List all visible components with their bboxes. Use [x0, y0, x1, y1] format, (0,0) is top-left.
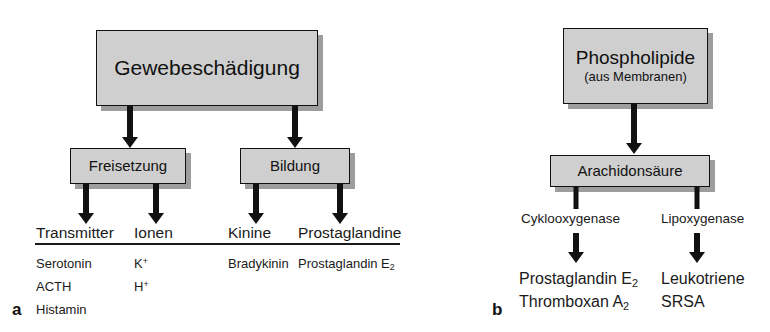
box-arachidonsaeure-label: Arachidonsäure: [577, 163, 682, 180]
arrow-freisetzung-to-transmitter: [78, 184, 94, 224]
column-header-kinine: Kinine: [228, 224, 271, 242]
box-bildung: Bildung: [240, 148, 350, 184]
arrow-shaft: [127, 106, 133, 137]
list-item: Bradykinin: [228, 256, 289, 271]
arrow-head: [568, 252, 584, 263]
list-item: K+: [134, 256, 148, 271]
arrow-bildung-to-prostaglandine: [332, 184, 348, 224]
box-arachidonsaeure: Arachidonsäure: [550, 155, 710, 187]
list-item: ACTH: [36, 279, 71, 294]
connector-arachidonsaeure-to-cyklooxygenase: [568, 187, 584, 209]
connector-shaft: [695, 187, 700, 209]
arrow-shaft: [337, 184, 343, 213]
enzyme-label-lipoxygenase: Lipoxygenase: [661, 211, 744, 226]
arrow-gewebeschaedigung-to-freisetzung: [122, 106, 138, 148]
connector-shaft: [574, 187, 579, 209]
column-header-ionen: Ionen: [134, 224, 173, 242]
column-header-transmitter: Transmitter: [36, 224, 114, 242]
arrow-cyklooxygenase-to-products: [568, 233, 584, 263]
arrow-head: [148, 213, 164, 224]
arrow-lipoxygenase-to-products: [689, 233, 705, 263]
list-item: Histamin: [36, 302, 87, 317]
arrow-head: [626, 143, 642, 154]
arrow-shaft: [631, 104, 637, 143]
product-label: SRSA: [661, 293, 705, 311]
box-freisetzung-label: Freisetzung: [89, 158, 167, 175]
connector-arachidonsaeure-to-lipoxygenase: [689, 187, 705, 209]
enzyme-label-cyklooxygenase: Cyklooxygenase: [521, 211, 620, 226]
panel-letter-b: b: [492, 300, 502, 320]
box-phospholipide-label: Phospholipide: [576, 47, 695, 68]
arrow-head: [122, 137, 138, 148]
panel-letter-a: a: [12, 300, 21, 320]
arrow-freisetzung-to-ionen: [148, 184, 164, 224]
box-freisetzung: Freisetzung: [70, 148, 186, 184]
arrow-head: [689, 252, 705, 263]
product-label: Thromboxan A2: [519, 293, 629, 312]
arrow-shaft: [253, 184, 259, 213]
column-header-prostaglandine: Prostaglandine: [298, 224, 401, 242]
arrow-gewebeschaedigung-to-bildung: [287, 106, 303, 148]
box-bildung-label: Bildung: [270, 158, 320, 175]
list-item: H+: [134, 279, 149, 294]
arrow-head: [332, 213, 348, 224]
arrow-head: [78, 213, 94, 224]
arrow-shaft: [83, 184, 89, 213]
product-label: Prostaglandin E2: [519, 270, 638, 289]
arrow-head: [248, 213, 264, 224]
arrow-shaft: [153, 184, 159, 213]
list-item: Serotonin: [36, 256, 92, 271]
arrow-head: [287, 137, 303, 148]
box-phospholipide-sublabel: (aus Membranen): [584, 70, 687, 85]
box-gewebeschaedigung: Gewebeschädigung: [96, 30, 318, 106]
arrow-shaft: [694, 233, 700, 252]
column-header-divider: [35, 243, 400, 245]
box-phospholipide: Phospholipide (aus Membranen): [563, 28, 708, 104]
arrow-shaft: [292, 106, 298, 137]
arrow-bildung-to-kinine: [248, 184, 264, 224]
flowchart-diagram: Gewebeschädigung Freisetzung Bildung Tra…: [0, 0, 770, 332]
box-gewebeschaedigung-label: Gewebeschädigung: [114, 56, 300, 80]
list-item: Prostaglandin E2: [298, 256, 395, 272]
arrow-shaft: [573, 233, 579, 252]
product-label: Leukotriene: [661, 270, 745, 288]
arrow-phospholipide-to-arachidonsaeure: [626, 104, 642, 154]
